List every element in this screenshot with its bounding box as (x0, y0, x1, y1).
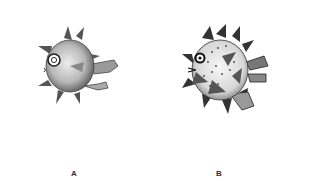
panel-label-b: B (216, 169, 222, 178)
pufferfish-a-illustration (34, 24, 124, 109)
pufferfish-b-illustration (182, 22, 272, 118)
panel-label-a: A (71, 169, 77, 178)
